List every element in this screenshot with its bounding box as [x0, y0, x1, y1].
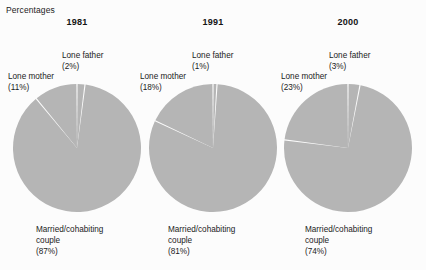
label-lone-father-text: Lone father	[329, 50, 370, 61]
pie-slice-lone-mother	[285, 84, 348, 148]
label-married-cohabiting-pct: (87%)	[36, 246, 103, 257]
label-married-cohabiting-line1: Married/cohabiting	[168, 224, 235, 235]
label-married-cohabiting-line2: couple	[36, 235, 103, 246]
label-lone-father: Lone father (2%)	[62, 50, 103, 72]
label-lone-mother: Lone mother (18%)	[140, 71, 186, 93]
label-married-cohabiting: Married/cohabiting couple (87%)	[36, 224, 103, 258]
label-married-cohabiting: Married/cohabiting couple (74%)	[305, 224, 372, 258]
label-lone-father-pct: (3%)	[329, 61, 370, 72]
label-lone-father: Lone father (1%)	[192, 50, 233, 72]
label-lone-father-pct: (1%)	[192, 61, 233, 72]
label-lone-mother-pct: (23%)	[281, 82, 327, 93]
panel-year-title: 1981	[6, 17, 148, 27]
pie-panel-2000: 2000 Lone father (3%) Lone mother (23%) …	[277, 0, 419, 270]
pie-svg	[11, 82, 143, 214]
label-lone-mother: Lone mother (11%)	[8, 71, 54, 93]
pie-slice-married-cohabiting-couple	[13, 85, 141, 212]
label-married-cohabiting-pct: (74%)	[305, 246, 372, 257]
label-married-cohabiting-line2: couple	[305, 235, 372, 246]
label-lone-father-text: Lone father	[62, 50, 103, 61]
label-lone-father-pct: (2%)	[62, 61, 103, 72]
pie-panel-1981: 1981 Lone father (2%) Lone mother (11%) …	[6, 0, 148, 270]
label-married-cohabiting-line2: couple	[168, 235, 235, 246]
label-married-cohabiting-line1: Married/cohabiting	[305, 224, 372, 235]
label-lone-mother-text: Lone mother	[281, 71, 327, 82]
pie-svg	[147, 82, 279, 214]
label-married-cohabiting-pct: (81%)	[168, 246, 235, 257]
label-lone-mother-pct: (11%)	[8, 82, 54, 93]
label-lone-mother: Lone mother (23%)	[281, 71, 327, 93]
label-married-cohabiting-line1: Married/cohabiting	[36, 224, 103, 235]
label-lone-mother-text: Lone mother	[140, 71, 186, 82]
label-married-cohabiting: Married/cohabiting couple (81%)	[168, 224, 235, 258]
label-lone-father-text: Lone father	[192, 50, 233, 61]
panel-year-title: 2000	[277, 17, 419, 27]
pie-svg	[282, 82, 414, 214]
pie-panel-1991: 1991 Lone father (1%) Lone mother (18%) …	[142, 0, 284, 270]
chart-canvas: Percentages 1981 Lone father (2%) Lone m…	[0, 0, 426, 270]
label-lone-mother-pct: (18%)	[140, 82, 186, 93]
label-lone-mother-text: Lone mother	[8, 71, 54, 82]
panel-year-title: 1991	[142, 17, 284, 27]
label-lone-father: Lone father (3%)	[329, 50, 370, 72]
